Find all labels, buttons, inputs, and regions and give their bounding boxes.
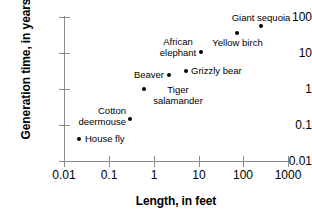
point-label-african-elephant-line2: elephant [160, 47, 196, 58]
point-label-giant-sequoia: Giant sequoia [226, 13, 296, 24]
y-ticklabel-0.1: 0.1 [250, 119, 312, 131]
point-label-african-elephant: Africanelephant [158, 37, 198, 58]
data-point-grizzly-bear [184, 69, 188, 73]
x-ticklabel-1000: 1000 [263, 169, 312, 181]
y-tick-10 [59, 53, 70, 54]
x-ticklabel-10: 10 [174, 169, 224, 181]
data-point-african-elephant [199, 50, 203, 54]
y-tick-1 [59, 89, 70, 90]
x-tick-10 [199, 156, 200, 167]
point-label-tiger-salamander-line2: salamander [153, 95, 203, 106]
x-tick-0.1 [109, 156, 110, 167]
y-ticklabel-10: 10 [250, 47, 312, 59]
point-label-cotton-deermouse-line1: Cotton [98, 105, 126, 116]
scatter-plot: Generation time, in years Length, in fee… [0, 0, 312, 217]
x-ticklabel-0.1: 0.1 [84, 169, 134, 181]
x-tick-1000 [288, 156, 289, 167]
x-tick-1 [154, 156, 155, 167]
data-point-yellow-birch [235, 31, 239, 35]
x-axis-title: Length, in feet [60, 194, 292, 208]
point-label-yellow-birch: Yellow birch [209, 38, 266, 49]
x-tick-100 [243, 156, 244, 167]
x-ticklabel-100: 100 [218, 169, 268, 181]
point-label-beaver: Beaver [128, 70, 164, 81]
y-ticklabel-0.01: 0.01 [250, 155, 312, 167]
data-point-giant-sequoia [259, 24, 263, 28]
y-axis-title: Generation time, in years [19, 0, 33, 149]
x-ticklabel-0.01: 0.01 [39, 169, 89, 181]
point-label-grizzly-bear: Grizzly bear [191, 66, 242, 77]
y-ticklabel-1: 1 [250, 83, 312, 95]
data-point-tiger-salamander [142, 87, 146, 91]
point-label-african-elephant-line1: African [163, 36, 193, 47]
point-label-house-fly: House fly [85, 134, 125, 145]
x-tick-0.01 [64, 156, 65, 167]
point-label-tiger-salamander-line1: Tiger [167, 84, 188, 95]
data-point-cotton-deermouse [128, 117, 132, 121]
point-label-cotton-deermouse-line2: deermouse [78, 116, 126, 127]
data-point-house-fly [77, 137, 81, 141]
y-tick-100 [59, 17, 70, 18]
data-point-beaver [167, 73, 171, 77]
x-ticklabel-1: 1 [129, 169, 179, 181]
point-label-cotton-deermouse: Cottondeermouse [68, 106, 126, 127]
point-label-tiger-salamander: Tigersalamander [148, 85, 208, 106]
